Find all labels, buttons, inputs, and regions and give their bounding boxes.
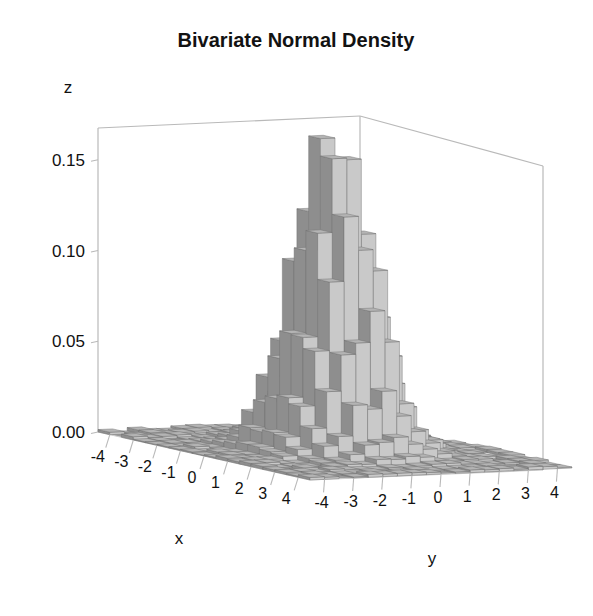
- svg-text:-2: -2: [373, 492, 387, 509]
- x-axis-label: x: [175, 529, 184, 548]
- svg-text:2: 2: [235, 480, 244, 497]
- svg-text:-3: -3: [114, 453, 128, 470]
- svg-text:3: 3: [521, 485, 530, 502]
- svg-text:-3: -3: [344, 493, 358, 510]
- z-axis-label: z: [64, 78, 73, 97]
- svg-text:0: 0: [188, 469, 197, 486]
- svg-text:-4: -4: [314, 494, 328, 511]
- svg-text:1: 1: [211, 474, 220, 491]
- svg-text:2: 2: [492, 486, 501, 503]
- svg-text:0.10: 0.10: [52, 242, 85, 261]
- svg-text:-1: -1: [161, 464, 175, 481]
- svg-text:0.00: 0.00: [52, 423, 85, 442]
- svg-text:-4: -4: [91, 448, 105, 465]
- svg-text:4: 4: [282, 490, 291, 507]
- svg-text:0.15: 0.15: [52, 151, 85, 170]
- svg-text:0: 0: [434, 489, 443, 506]
- svg-text:1: 1: [463, 488, 472, 505]
- svg-text:-1: -1: [402, 490, 416, 507]
- bivariate-normal-density-chart: Bivariate Normal Density 0.000.050.100.1…: [0, 0, 593, 616]
- svg-text:-2: -2: [138, 458, 152, 475]
- y-axis-label: y: [428, 549, 437, 568]
- svg-text:0.05: 0.05: [52, 332, 85, 351]
- figure-page: Bivariate Normal Density 0.000.050.100.1…: [0, 0, 593, 616]
- svg-text:3: 3: [258, 485, 267, 502]
- svg-text:4: 4: [550, 484, 559, 501]
- chart-title: Bivariate Normal Density: [178, 29, 416, 51]
